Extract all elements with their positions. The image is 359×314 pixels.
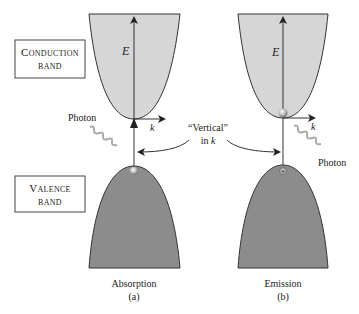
k-label-a: k (150, 122, 155, 133)
valence-band-b (238, 165, 328, 268)
vertical-arrow-left (139, 140, 189, 152)
vertical-in-k-annotation: “Vertical” in k (139, 122, 279, 152)
vertical-arrow-right (227, 140, 279, 152)
conduction-band-label-line2: BAND (38, 62, 62, 71)
hole-symbol-b: + (281, 168, 285, 176)
energy-label-a: E (121, 44, 130, 58)
photon-label-b: Photon (318, 157, 346, 168)
panel-a-title: Absorption (112, 278, 157, 289)
electron-a (130, 167, 138, 175)
panel-b-emission: E k + Photon Emission (b) (238, 14, 346, 303)
valence-band-a (89, 166, 180, 268)
band-diagram: CONDUCTION BAND VALENCE BAND E k Photon … (0, 0, 359, 314)
conduction-band-box: CONDUCTION BAND (15, 40, 85, 78)
panel-a-letter: (a) (128, 291, 139, 303)
vertical-note-line2: in k (201, 135, 216, 146)
panel-b-title: Emission (264, 278, 301, 289)
photon-wave-b (294, 125, 321, 144)
photon-label-a: Photon (68, 112, 96, 123)
panel-b-letter: (b) (277, 291, 289, 303)
vertical-note-line1: “Vertical” (188, 122, 228, 133)
photon-wave-a (90, 126, 117, 145)
valence-band-label-line2: BAND (38, 198, 62, 207)
valence-band-box: VALENCE BAND (15, 176, 85, 212)
electron-b (279, 109, 288, 118)
energy-label-b: E (271, 45, 280, 59)
k-label-b: k (311, 121, 316, 132)
